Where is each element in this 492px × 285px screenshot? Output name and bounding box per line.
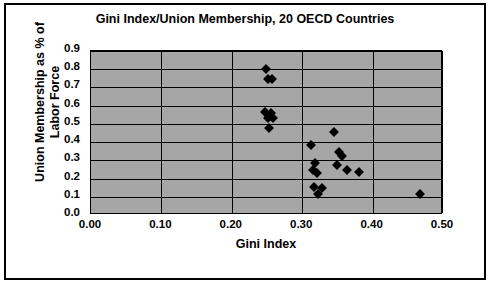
x-tick-label: 0.40 [352, 218, 392, 230]
gridline-horizontal [91, 197, 441, 198]
data-point [268, 113, 278, 123]
y-tick-label: 0.6 [50, 97, 80, 109]
data-point [342, 165, 352, 175]
data-point [332, 160, 342, 170]
chart-container: Gini Index/Union Membership, 20 OECD Cou… [4, 3, 486, 280]
x-tick-label: 0.30 [281, 218, 321, 230]
x-tick-label: 0.50 [422, 218, 462, 230]
y-tick-label: 0.5 [50, 115, 80, 127]
y-tick-label: 0.1 [50, 188, 80, 200]
chart-title: Gini Index/Union Membership, 20 OECD Cou… [6, 12, 484, 26]
gridline-vertical [232, 51, 233, 213]
gridline-vertical [373, 51, 374, 213]
gridline-horizontal [91, 142, 441, 143]
data-point [354, 167, 364, 177]
y-tick-label: 0.4 [50, 133, 80, 145]
x-tick-label: 0.10 [140, 218, 180, 230]
data-point [261, 64, 271, 74]
y-tick-label: 0.7 [50, 78, 80, 90]
gridline-horizontal [91, 160, 441, 161]
gridline-vertical [442, 51, 443, 213]
plot-area [90, 50, 442, 214]
x-axis-title: Gini Index [90, 237, 442, 251]
gridline-horizontal [91, 87, 441, 88]
y-tick-label: 0.0 [50, 206, 80, 218]
y-tick-label: 0.9 [50, 42, 80, 54]
y-tick-label: 0.3 [50, 151, 80, 163]
y-tick-label: 0.8 [50, 60, 80, 72]
gridline-vertical [302, 51, 303, 213]
gridline-horizontal [91, 179, 441, 180]
gridline-horizontal [91, 51, 441, 52]
gridline-horizontal [91, 106, 441, 107]
gridline-vertical [161, 51, 162, 213]
data-point [312, 168, 322, 178]
data-point [329, 127, 339, 137]
x-tick-label: 0.00 [70, 218, 110, 230]
x-tick-label: 0.20 [211, 218, 251, 230]
y-tick-label: 0.2 [50, 170, 80, 182]
